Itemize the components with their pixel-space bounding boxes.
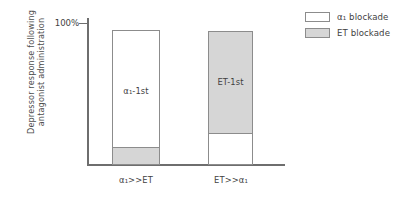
legend-swatch-gray-icon <box>305 28 330 38</box>
bar-inner-label-et-first: ET-1st <box>208 77 253 87</box>
x-axis-category-label-2: ET>>α₁ <box>195 175 267 185</box>
y-axis-title-line-1: Depressor response following <box>26 10 36 134</box>
legend-label-alpha1-blockade: α₁ blockade <box>337 12 388 22</box>
y-axis-tick-label-100: 100% <box>50 18 79 28</box>
legend: α₁ blockade ET blockade <box>305 12 390 38</box>
bar-et-first: ET-1st <box>208 31 253 165</box>
bar-segment-et-blockade <box>112 147 160 165</box>
y-axis-line <box>87 18 89 166</box>
y-axis-title-line-2: antagonist administration <box>36 18 46 127</box>
bar-alpha1-first: α₁-1st <box>112 30 160 165</box>
y-axis-tick-100 <box>79 23 88 24</box>
x-axis-category-label-1: α₁>>ET <box>100 175 172 185</box>
x-axis-line <box>87 164 285 166</box>
legend-item-alpha1-blockade: α₁ blockade <box>305 12 390 22</box>
legend-label-et-blockade: ET blockade <box>337 28 390 38</box>
legend-item-et-blockade: ET blockade <box>305 28 390 38</box>
bar-chart-figure: Depressor response following antagonist … <box>0 0 401 202</box>
bar-inner-label-alpha1-first: α₁-1st <box>112 86 160 96</box>
legend-swatch-white-icon <box>305 12 330 22</box>
bar-segment-alpha1-blockade <box>208 133 253 165</box>
